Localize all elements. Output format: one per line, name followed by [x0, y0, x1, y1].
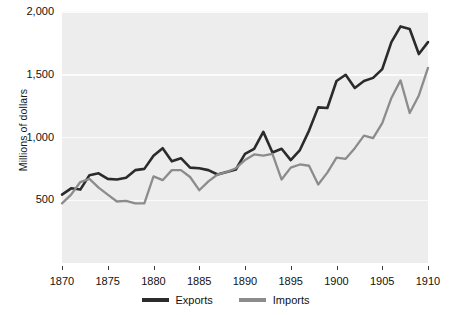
x-tick-mark: [154, 266, 155, 270]
legend-swatch-exports: [142, 298, 169, 302]
legend-item-exports[interactable]: Exports: [142, 294, 213, 306]
x-tick-mark: [245, 266, 246, 270]
legend-label-imports: Imports: [273, 294, 310, 306]
chart-container: Millions of dollars 5001,0001,5002,000 1…: [0, 0, 451, 315]
x-tick-label: 1910: [408, 275, 448, 287]
x-tick-label: 1895: [271, 275, 311, 287]
x-tick-label: 1875: [88, 275, 128, 287]
x-tick-mark: [199, 266, 200, 270]
legend-item-imports[interactable]: Imports: [239, 294, 310, 306]
x-tick-mark: [382, 266, 383, 270]
x-tick-label: 1890: [225, 275, 265, 287]
x-tick-mark: [428, 266, 429, 270]
x-tick-mark: [291, 266, 292, 270]
legend-label-exports: Exports: [176, 294, 213, 306]
x-tick-mark: [62, 266, 63, 270]
x-tick-label: 1905: [362, 275, 402, 287]
x-tick-label: 1870: [42, 275, 82, 287]
chart-legend: Exports Imports: [0, 294, 451, 306]
legend-swatch-imports: [239, 298, 266, 302]
x-tick-mark: [108, 266, 109, 270]
x-tick-label: 1900: [317, 275, 357, 287]
x-tick-label: 1885: [179, 275, 219, 287]
x-tick-mark: [337, 266, 338, 270]
series-line-exports: [62, 26, 428, 194]
series-lines: [0, 0, 451, 315]
x-tick-label: 1880: [134, 275, 174, 287]
series-line-imports: [62, 68, 428, 204]
